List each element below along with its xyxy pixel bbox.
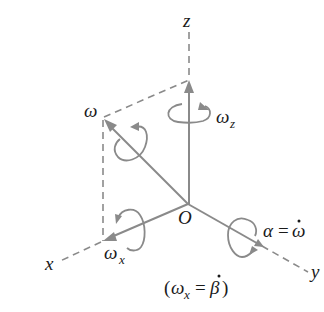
omega-rotation-icon [115,127,147,161]
alpha-omega-dot: ω [292,220,305,241]
caption-subscript: x [183,287,190,302]
alpha-equals: = [278,220,289,241]
alpha-label: α [263,220,274,241]
projection-omega-to-z [104,80,189,117]
omega-z-label: ω [216,106,229,127]
omega-x-label: ω [104,242,117,263]
omega-label: ω [84,100,97,121]
omega-rotation-arrowhead [130,122,139,131]
angular-velocity-diagram: z ω ω z O x ω x y α = ω ( ω x = β ) [0,0,324,312]
y-axis-label: y [309,261,320,282]
omega-z-subscript: z [229,116,235,131]
omega-x-rotation-arrowhead [115,214,122,224]
caption-open-paren: ( [164,277,170,299]
z-axis-label: z [182,10,191,31]
x-axis-label: x [44,253,54,274]
beta-dot-mark [218,275,221,278]
caption-omega: ω [171,277,184,298]
caption-equals: = [195,277,206,298]
y-axis-solid [188,204,262,246]
omega-x-rotation-icon [118,210,145,251]
alpha-rotation-upper [248,220,256,236]
omega-dot-mark [298,220,301,223]
omega-vector [108,124,188,204]
caption-close-paren: ) [222,277,228,299]
alpha-rotation-arrowhead [249,246,258,255]
omega-x-subscript: x [118,252,125,267]
origin-label: O [178,207,192,228]
y-axis-dashed [262,246,308,272]
caption-beta: β [209,277,220,298]
omega-x-arrowhead [103,232,117,241]
omega-z-rotation-arrowhead [198,102,209,110]
x-axis-dashed [58,242,101,262]
omega-x-vector [109,204,188,238]
